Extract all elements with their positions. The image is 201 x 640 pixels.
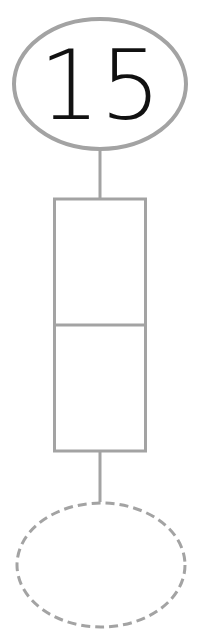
top-node: 15 [14, 19, 186, 149]
top-node-value: 15 [39, 30, 161, 142]
bottom-ellipse[interactable] [17, 503, 185, 627]
middle-node [55, 199, 146, 451]
number-bond-diagram: 15 [0, 0, 201, 640]
bottom-node[interactable] [17, 503, 185, 627]
